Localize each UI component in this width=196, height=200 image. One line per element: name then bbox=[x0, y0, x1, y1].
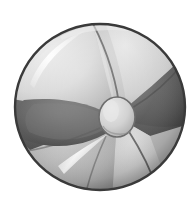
panel-group bbox=[2, 20, 196, 200]
hub-highlight bbox=[103, 100, 119, 122]
beach-ball-illustration bbox=[0, 0, 196, 200]
center-hub bbox=[99, 97, 135, 137]
illustration-canvas: A grayscale beach ball with six radiatin… bbox=[0, 0, 196, 200]
